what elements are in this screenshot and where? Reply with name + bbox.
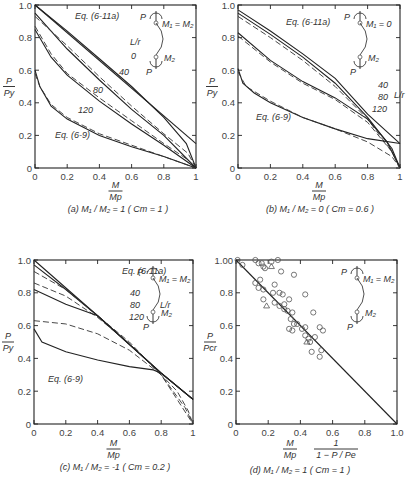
y-tick-label: 0.8: [220, 287, 233, 298]
annotation-label: 120: [129, 312, 144, 322]
svg-text:M₁ = M₂: M₁ = M₂: [363, 274, 395, 284]
annotation-label: 120: [372, 104, 387, 114]
test-point-circle: [311, 310, 316, 315]
y-axis-label: PPy: [206, 76, 218, 98]
svg-text:Mp: Mp: [107, 450, 120, 460]
test-point-circle: [303, 292, 308, 297]
x-tick-label: 0.6: [123, 427, 136, 438]
x-axis-label: MMp11 − P / Pe: [283, 438, 358, 460]
y-axis-label: PPy: [3, 76, 15, 98]
svg-text:Py: Py: [4, 88, 15, 98]
x-tick-label: 0: [233, 427, 238, 438]
x-tick-label: 0.4: [91, 427, 104, 438]
svg-text:M: M: [315, 180, 323, 190]
x-axis-label: MMp: [109, 180, 123, 202]
y-axis-label: PPcr: [203, 331, 218, 353]
y-tick-label: 1.0: [222, 0, 235, 11]
annotation-label: 80: [130, 300, 140, 310]
x-tick-label: 0.2: [262, 427, 275, 438]
svg-text:M₁ = M₂: M₁ = M₂: [162, 19, 194, 29]
y-tick-label: 0.2: [19, 130, 32, 141]
test-point-circle: [277, 290, 282, 295]
svg-text:M₂: M₂: [365, 308, 376, 318]
svg-text:P: P: [347, 322, 353, 332]
test-point-circle: [320, 328, 325, 333]
chart-panel-d: 00.20.40.60.81.000.20.40.60.81.00PPcrMMp…: [203, 255, 403, 476]
y-tick-label: 0.2: [18, 386, 31, 397]
svg-text:1 − P / Pe: 1 − P / Pe: [316, 450, 355, 460]
x-axis-label: MMp: [107, 438, 121, 460]
test-point-circle: [282, 302, 287, 307]
svg-text:P: P: [146, 67, 152, 77]
test-point-circle: [278, 269, 283, 274]
x-tick-label: 1: [397, 171, 402, 182]
test-point-circle: [309, 349, 314, 354]
series-line: [34, 321, 193, 424]
test-point-circle: [312, 334, 317, 339]
test-point-circle: [258, 277, 263, 282]
svg-text:Py: Py: [207, 88, 218, 98]
y-tick-label: 0.8: [19, 32, 32, 43]
x-tick-label: 1.0: [390, 427, 403, 438]
x-tick-label: 0.6: [329, 171, 342, 182]
test-point-circle: [288, 316, 293, 321]
svg-text:Mp: Mp: [109, 192, 122, 202]
y-tick-label: 0.6: [220, 320, 233, 331]
y-tick-label: 0.6: [18, 320, 31, 331]
y-tick-label: 0.2: [220, 386, 233, 397]
svg-text:P: P: [341, 267, 347, 277]
svg-text:Pcr: Pcr: [203, 343, 218, 353]
annotation-label: 120: [78, 105, 93, 115]
chart-caption: (b) M₁ / M₂ = 0 ( Cm = 0.6 ): [266, 204, 374, 214]
chart-caption: (c) M₁ / M₂ = -1 ( Cm = 0.2 ): [60, 462, 170, 472]
test-point-circle: [290, 310, 295, 315]
annotation-label: 40: [378, 80, 388, 90]
y-tick-label: 0.6: [19, 65, 32, 76]
test-point-circle: [303, 325, 308, 330]
svg-text:Py: Py: [3, 343, 14, 353]
annotation-label: 40: [119, 67, 129, 77]
test-point-triangle: [264, 303, 270, 308]
y-tick-label: 1.00: [215, 255, 234, 266]
x-tick-label: 0.8: [157, 171, 170, 182]
column-load-diagram-icon: PM₁ = M₂M₂P: [140, 11, 194, 77]
svg-text:1: 1: [333, 438, 338, 448]
x-tick-label: 0: [31, 427, 36, 438]
annotation-label: Eq. (6-11a): [75, 11, 119, 21]
series-line: [35, 13, 196, 168]
interaction-line: [236, 260, 397, 424]
x-tick-label: 0: [235, 171, 240, 182]
x-tick-label: 0.6: [125, 171, 138, 182]
chart-panel-a: 00.20.40.60.8100.20.40.60.81.0PPyMMp(a) …: [3, 0, 199, 214]
test-point-circle: [261, 297, 266, 302]
series-line: [35, 29, 196, 168]
annotation-label: L/r: [394, 90, 406, 100]
svg-text:P: P: [5, 331, 11, 341]
series-line: [238, 13, 400, 168]
y-tick-label: 0.4: [19, 97, 32, 108]
x-tick-label: 0.2: [59, 427, 72, 438]
test-point-circle: [272, 300, 277, 305]
svg-text:P: P: [350, 67, 356, 77]
test-point-circle: [259, 261, 264, 266]
svg-text:P: P: [140, 12, 146, 22]
series-line: [35, 26, 196, 168]
test-point-circle: [317, 354, 322, 359]
test-point-circle: [291, 272, 296, 277]
series-line: [35, 70, 196, 168]
chart-panel-c: 00.20.40.60.8100.20.40.60.81.0PPyMMp(c) …: [2, 255, 196, 473]
y-tick-label: 0.4: [222, 97, 235, 108]
figure-canvas: 00.20.40.60.8100.20.40.60.81.0PPyMMp(a) …: [0, 0, 409, 494]
test-point-circle: [287, 326, 292, 331]
y-tick-label: 1.0: [18, 255, 31, 266]
x-tick-label: 0.6: [326, 427, 339, 438]
x-tick-label: 0: [32, 171, 37, 182]
x-tick-label: 0.8: [358, 427, 371, 438]
y-tick-label: 0.6: [222, 65, 235, 76]
y-tick-label: 0.4: [18, 353, 31, 364]
y-axis-label: PPy: [2, 331, 14, 353]
y-tick-label: 0: [228, 419, 233, 430]
x-tick-label: 1: [193, 171, 198, 182]
chart-caption: (d) M₁ / M₂ = 1 ( Cm = 1 ): [250, 465, 350, 475]
test-point-circle: [272, 282, 277, 287]
